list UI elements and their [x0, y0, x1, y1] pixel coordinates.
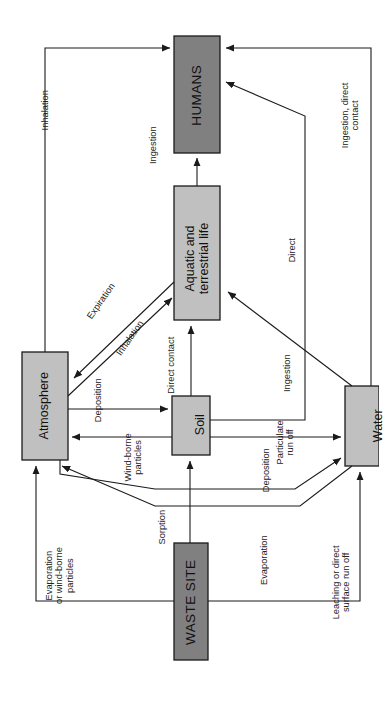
node-waste-site-box — [174, 543, 208, 660]
edge-ingestion-water-biota — [228, 292, 352, 386]
edge-expiration-biota-atmos — [74, 282, 174, 378]
edge-inhalation-atmos-biota — [68, 298, 172, 396]
edge-inhalation-atmos-humans — [45, 48, 170, 352]
edge-ingestion-direct-contact-water-humans — [226, 48, 371, 386]
edge-direct-soil-humans — [210, 82, 305, 420]
edge-evaporation-wind-borne-water-atmos — [62, 466, 352, 506]
node-soil-box — [172, 396, 210, 455]
edge-evaporation-waste-atmos — [36, 466, 174, 601]
node-water-box — [345, 386, 379, 466]
edge-deposition-atmos-water — [60, 458, 341, 489]
edge-leaching-surface-runoff-waste-water — [208, 472, 360, 601]
node-humans-box — [174, 36, 220, 153]
node-biota-box — [174, 186, 220, 320]
node-atmosphere-box — [22, 352, 68, 460]
